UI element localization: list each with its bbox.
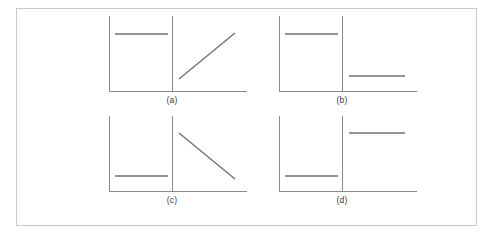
right-segment [179, 33, 235, 79]
panel-d-label: (d) [257, 195, 427, 205]
panel-a: (a) [87, 11, 257, 111]
panel-b: (b) [257, 11, 427, 111]
panel-d: (d) [257, 111, 427, 211]
figure-frame: (a) (b) (c) (d) [16, 8, 477, 226]
panel-a-label: (a) [87, 95, 257, 105]
panel-b-label: (b) [257, 95, 427, 105]
panel-c-label: (c) [87, 195, 257, 205]
right-segment [179, 133, 235, 179]
panel-c: (c) [87, 111, 257, 211]
